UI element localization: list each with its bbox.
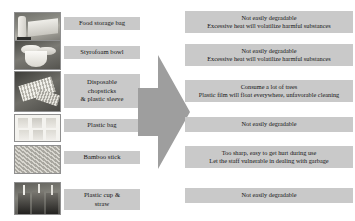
description-box: Not easily degradable Excessive heat wil… [185,11,353,33]
disposable-chopsticks-photo [14,71,61,112]
list-item: Plastic cup & straw [0,177,145,217]
item-label-plastic-cup-straw: Plastic cup & straw [64,189,140,210]
label-text: Food storage bag [79,19,125,27]
right-arrow-shape [138,52,192,172]
bamboo-stick-photo [14,145,61,174]
item-label-plastic-bag: Plastic bag [64,119,140,132]
list-item: Styrofoam bowl [0,38,145,70]
label-text-line: & plastic sleeve [81,95,124,103]
arrow-polygon [138,55,190,169]
description-box: Not easily degradable Excessive heat wil… [185,44,353,66]
label-text-line: chopsticks [88,87,116,95]
item-label-disposable-chopsticks: Disposable chopsticks & plastic sleeve [64,74,140,108]
plastic-bag-photo [14,114,61,142]
styrofoam-bowl-photo [14,40,61,70]
description-box: Consume a lot of trees Plastic film will… [185,80,353,102]
description-line: Excessive heat will volatilize harmful s… [207,22,331,30]
description-box: Too sharp, easy to get hurt during use L… [185,146,353,168]
right-arrow-icon [138,52,192,172]
descriptions-column: Not easily degradable Excessive heat wil… [185,0,353,221]
item-label-food-storage-bag: Food storage bag [64,17,140,30]
list-item: Bamboo stick [0,145,145,177]
label-text-line: Plastic cup & [84,191,120,199]
label-text-line: Disposable [87,78,117,86]
description-line: Too sharp, easy to get hurt during use [222,149,317,157]
description-line: Not easily degradable [242,120,297,128]
label-text: Styrofoam bowl [80,48,123,56]
items-column: Food storage bag Styrofoam bowl Disposab… [0,0,145,221]
label-text: Bamboo stick [83,153,120,161]
description-line: Not easily degradable [242,14,297,22]
item-label-bamboo-stick: Bamboo stick [64,151,140,164]
description-line: Not easily degradable [242,47,297,55]
description-box: Not easily degradable [185,117,353,132]
label-text-line: straw [95,200,110,208]
description-line: Not easily degradable [242,191,297,199]
description-line: Excessive heat will volatilize harmful s… [207,55,331,63]
description-line: Plastic film will float everywhere, unfa… [199,91,339,99]
description-line: Consume a lot of trees [241,83,298,91]
list-item: Disposable chopsticks & plastic sleeve [0,70,145,114]
plastic-cup-straw-photo [14,182,61,215]
list-item: Plastic bag [0,114,145,145]
label-text: Plastic bag [87,121,116,129]
list-item: Food storage bag [0,6,145,38]
item-label-styrofoam-bowl: Styrofoam bowl [64,46,140,59]
description-line: Let the staff vulnerable in dealing with… [209,157,328,165]
description-box: Not easily degradable [185,188,353,203]
